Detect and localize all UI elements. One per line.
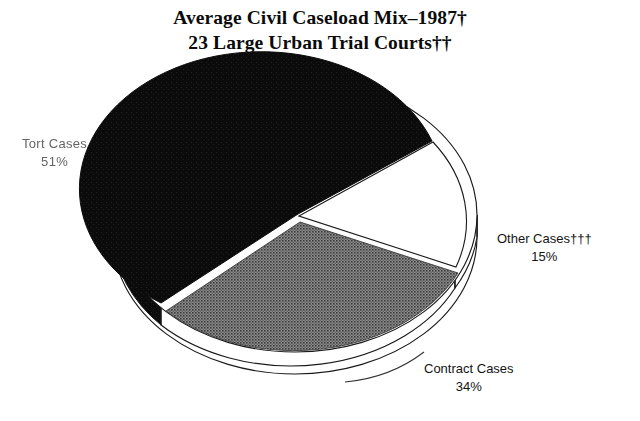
slice-label-contract-percent: 34%: [424, 378, 514, 396]
slice-label-other: Other Cases††† 15%: [497, 230, 592, 266]
slice-label-tort: Tort Cases 51%: [22, 135, 87, 171]
slice-label-tort-percent: 51%: [22, 153, 87, 171]
slice-label-other-percent: 15%: [497, 248, 592, 266]
slice-label-contract-name: Contract Cases: [424, 360, 514, 378]
pie-chart-graphic: [0, 0, 640, 421]
slice-label-contract: Contract Cases 34%: [424, 360, 514, 396]
pie-chart-figure: Average Civil Caseload Mix–1987† 23 Larg…: [0, 0, 640, 421]
slice-label-other-name: Other Cases†††: [497, 230, 592, 248]
slice-label-tort-name: Tort Cases: [22, 135, 87, 153]
